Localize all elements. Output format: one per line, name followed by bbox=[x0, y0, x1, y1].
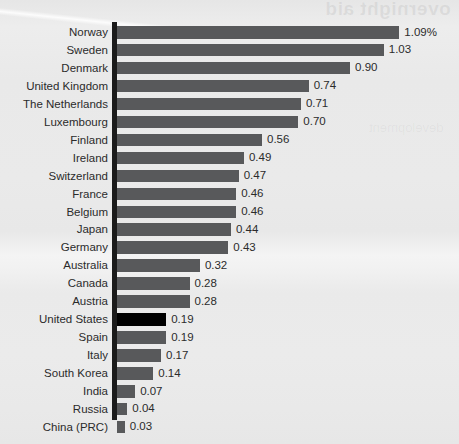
category-label: Sweden bbox=[66, 44, 108, 57]
category-label: France bbox=[72, 188, 108, 201]
bar-row: South Korea0.14 bbox=[0, 367, 459, 385]
value-label: 0.07 bbox=[140, 385, 162, 398]
value-label: 0.46 bbox=[241, 187, 263, 200]
value-label: 0.19 bbox=[171, 313, 193, 326]
horizontal-bar-chart: Norway1.09%Sweden1.03Denmark0.90United K… bbox=[0, 0, 459, 444]
bar bbox=[117, 403, 127, 416]
value-label: 0.28 bbox=[195, 277, 217, 290]
bar-row: Ireland0.49 bbox=[0, 152, 459, 170]
category-label: United Kingdom bbox=[26, 80, 108, 93]
bar-row: Norway1.09% bbox=[0, 26, 459, 44]
value-label: 0.04 bbox=[132, 402, 154, 415]
value-label: 0.44 bbox=[236, 223, 258, 236]
category-label: Finland bbox=[70, 134, 108, 147]
value-label: 0.70 bbox=[303, 115, 325, 128]
category-label: Japan bbox=[77, 223, 108, 236]
category-label: Russia bbox=[73, 403, 108, 416]
category-label: Italy bbox=[87, 349, 108, 362]
bar-row: Belgium0.46 bbox=[0, 206, 459, 224]
bar bbox=[117, 349, 161, 362]
bar-row: Canada0.28 bbox=[0, 277, 459, 295]
category-label: Ireland bbox=[73, 152, 108, 165]
bar-row: Switzerland0.47 bbox=[0, 170, 459, 188]
value-label: 0.28 bbox=[195, 295, 217, 308]
bar-row: India0.07 bbox=[0, 385, 459, 403]
bar-row: United Kingdom0.74 bbox=[0, 80, 459, 98]
category-label: India bbox=[83, 385, 108, 398]
category-label: Switzerland bbox=[49, 170, 108, 183]
bar bbox=[117, 421, 125, 434]
bar bbox=[117, 80, 309, 93]
bar-row: Finland0.56 bbox=[0, 134, 459, 152]
category-label: Austria bbox=[72, 295, 108, 308]
bar bbox=[117, 152, 244, 165]
value-label: 0.71 bbox=[306, 97, 328, 110]
bar bbox=[117, 385, 135, 398]
category-label: South Korea bbox=[44, 367, 108, 380]
bar-row: Spain0.19 bbox=[0, 331, 459, 349]
bar-row: Australia0.32 bbox=[0, 259, 459, 277]
bar bbox=[117, 26, 399, 39]
value-label: 0.56 bbox=[267, 133, 289, 146]
category-label: Norway bbox=[69, 26, 108, 39]
bar-row: Denmark0.90 bbox=[0, 62, 459, 80]
bar-row: Luxembourg0.70 bbox=[0, 116, 459, 134]
bar bbox=[117, 170, 239, 183]
value-label: 0.43 bbox=[233, 241, 255, 254]
bar-row: Japan0.44 bbox=[0, 223, 459, 241]
category-label: The Netherlands bbox=[23, 98, 108, 111]
bar bbox=[117, 206, 236, 219]
bar bbox=[117, 277, 190, 290]
bar bbox=[117, 295, 190, 308]
category-label: China (PRC) bbox=[43, 421, 108, 434]
bar-row: Russia0.04 bbox=[0, 403, 459, 421]
value-label: 0.17 bbox=[166, 349, 188, 362]
bar-row: France0.46 bbox=[0, 188, 459, 206]
bar-highlighted bbox=[117, 313, 166, 326]
category-label: Denmark bbox=[61, 62, 108, 75]
bar bbox=[117, 331, 166, 344]
bar bbox=[117, 188, 236, 201]
bar-row: Italy0.17 bbox=[0, 349, 459, 367]
value-label: 1.09% bbox=[404, 26, 437, 39]
category-label: Luxembourg bbox=[44, 116, 108, 129]
bar-row: United States0.19 bbox=[0, 313, 459, 331]
bar bbox=[117, 62, 350, 75]
bar bbox=[117, 367, 153, 380]
category-label: Belgium bbox=[66, 206, 108, 219]
bar-row: Austria0.28 bbox=[0, 295, 459, 313]
value-label: 0.49 bbox=[249, 151, 271, 164]
category-label: Germany bbox=[61, 241, 108, 254]
value-label: 0.32 bbox=[205, 259, 227, 272]
value-label: 0.46 bbox=[241, 205, 263, 218]
category-label: Spain bbox=[79, 331, 108, 344]
value-label: 0.03 bbox=[130, 420, 152, 433]
bar-row: China (PRC)0.03 bbox=[0, 421, 459, 439]
value-label: 1.03 bbox=[389, 43, 411, 56]
bar-row: Germany0.43 bbox=[0, 241, 459, 259]
bar bbox=[117, 223, 231, 236]
bar bbox=[117, 259, 200, 272]
value-label: 0.74 bbox=[314, 79, 336, 92]
category-label: United States bbox=[39, 313, 108, 326]
category-label: Canada bbox=[68, 277, 108, 290]
bar bbox=[117, 241, 228, 254]
value-label: 0.47 bbox=[244, 169, 266, 182]
bar bbox=[117, 44, 384, 57]
category-label: Australia bbox=[63, 259, 108, 272]
bar bbox=[117, 134, 262, 147]
bar bbox=[117, 98, 301, 111]
value-label: 0.19 bbox=[171, 331, 193, 344]
value-label: 0.90 bbox=[355, 61, 377, 74]
bar-row: The Netherlands0.71 bbox=[0, 98, 459, 116]
chart-page: overnight aid development Norway1.09%Swe… bbox=[0, 0, 459, 444]
bar-row: Sweden1.03 bbox=[0, 44, 459, 62]
value-label: 0.14 bbox=[158, 367, 180, 380]
bar bbox=[117, 116, 298, 129]
